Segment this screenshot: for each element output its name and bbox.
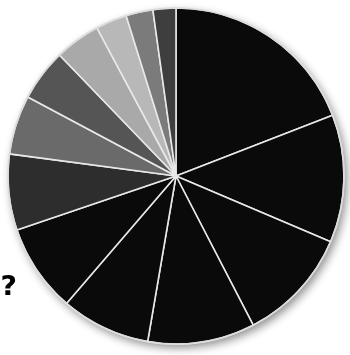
question-mark-annotation: ? [1, 271, 17, 301]
pie-chart-svg [0, 0, 350, 355]
pie-slices [8, 8, 344, 344]
pie-chart: ? [0, 0, 350, 355]
